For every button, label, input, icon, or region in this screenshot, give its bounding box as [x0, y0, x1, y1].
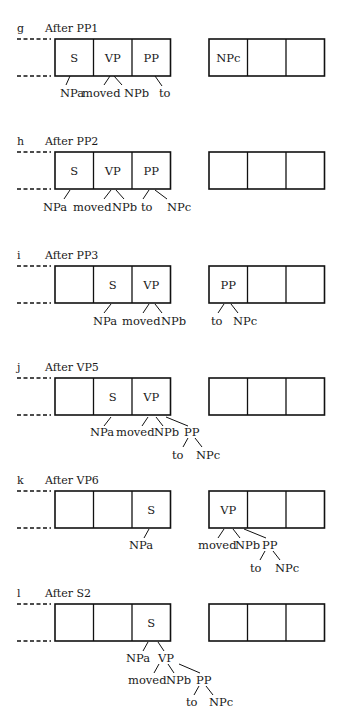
tree-node-label: NPc [233, 314, 257, 328]
tree-branch [179, 664, 200, 673]
tree-node-label: NPc [275, 561, 299, 575]
left-buffer-box: SVPPP [55, 152, 171, 189]
tree-node-label: NPa [129, 538, 153, 552]
tree-branch [260, 551, 265, 560]
panel-l: lAfter S2SNPaVPmovedNPbPPtoNPc [17, 587, 325, 709]
panel-title: After VP5 [44, 361, 99, 374]
tree-branch [206, 686, 213, 695]
tree-branch [144, 529, 149, 538]
left-buffer-box: S [55, 604, 171, 641]
tree-branch [168, 664, 174, 673]
tree-branch [116, 190, 124, 199]
tree-node-label: moved [198, 538, 237, 552]
tree-node-label: NPb [161, 314, 186, 328]
tree-node-label: moved [128, 673, 167, 687]
tree-node-label: PP [196, 673, 212, 687]
tree-node-label: NPb [124, 86, 149, 100]
tree-branch [155, 190, 167, 199]
tree-branch [158, 642, 164, 651]
cell-label: VP [219, 503, 236, 517]
tree-branch [195, 438, 202, 447]
cell-label: S [109, 390, 117, 404]
tree-branch [143, 642, 148, 651]
right-buffer-box: PP [209, 266, 325, 303]
tree-node-label: NPa [93, 314, 117, 328]
tree-branch [154, 664, 159, 673]
tree-branch [114, 76, 122, 85]
tree-node-label: moved [73, 200, 112, 214]
right-buffer-box [209, 378, 325, 415]
cell-label: PP [144, 51, 160, 65]
cell-label: VP [142, 390, 159, 404]
panel-title: After PP3 [44, 249, 98, 262]
right-box-frame [209, 152, 325, 189]
left-buffer-box: SVP [55, 378, 171, 415]
tree-branch [231, 304, 238, 313]
panel-g: gAfter PP1SVPPPNPcNPamovedNPbto [17, 22, 325, 100]
cell-label: NPc [216, 51, 240, 65]
panel-letter: i [17, 249, 21, 262]
tree-node-label: NPa [126, 651, 150, 665]
tree-node-label: PP [184, 425, 200, 439]
tree-branch [218, 304, 224, 313]
diagram-canvas: gAfter PP1SVPPPNPcNPamovedNPbtohAfter PP… [0, 0, 344, 721]
panel-h: hAfter PP2SVPPPNPamovedNPbtoNPc [17, 135, 325, 214]
cell-label: S [70, 164, 78, 178]
tree-node-label: PP [262, 538, 278, 552]
cell-label: PP [221, 278, 237, 292]
panel-letter: l [17, 587, 21, 600]
panel-letter: h [17, 135, 24, 148]
tree-branch [64, 190, 70, 199]
tree-node-label: to [159, 86, 171, 100]
tree-node-label: NPb [166, 673, 191, 687]
tree-node-label: VP [157, 651, 174, 665]
right-buffer-box [209, 152, 325, 189]
tree-node-label: moved [82, 86, 121, 100]
tree-node-label: moved [116, 425, 155, 439]
tree-node-label: NPa [43, 200, 67, 214]
tree-branch [244, 529, 266, 538]
right-box-frame [209, 378, 325, 415]
panel-i: iAfter PP3SVPPPNPamovedNPbtoNPc [17, 249, 325, 328]
tree-node-label: NPb [235, 538, 260, 552]
tree-node-label: NPc [209, 695, 233, 709]
left-buffer-box: SVP [55, 266, 171, 303]
panel-title: After S2 [44, 587, 91, 600]
cell-label: VP [104, 164, 121, 178]
right-buffer-box: NPc [209, 39, 325, 76]
cell-label: PP [144, 164, 160, 178]
panel-j: jAfter VP5SVPNPamovedNPbPPtoNPc [15, 361, 325, 462]
tree-node-label: NPa [90, 425, 114, 439]
tree-branch [194, 686, 199, 695]
cell-label: S [147, 503, 155, 517]
left-buffer-box: SVPPP [55, 39, 171, 76]
tree-node-label: NPc [167, 200, 191, 214]
tree-branch [104, 76, 110, 85]
tree-branch [183, 438, 188, 447]
tree-node-label: NPb [112, 200, 137, 214]
tree-branch [143, 190, 149, 199]
tree-node-label: to [186, 695, 198, 709]
tree-node-label: NPa [60, 86, 84, 100]
tree-branch [155, 76, 162, 86]
tree-node-label: to [250, 561, 262, 575]
tree-branch [273, 551, 280, 560]
tree-node-label: to [141, 200, 153, 214]
tree-node-label: NPc [196, 448, 220, 462]
tree-branch [233, 529, 240, 538]
tree-branch [143, 304, 149, 313]
tree-node-label: NPb [154, 425, 179, 439]
tree-node-label: to [172, 448, 184, 462]
tree-branch [104, 190, 111, 199]
left-buffer-box: S [55, 491, 171, 528]
cell-label: S [147, 616, 155, 630]
panel-letter: g [17, 22, 24, 35]
panel-letter: j [15, 361, 20, 374]
cell-label: S [109, 278, 117, 292]
tree-node-label: moved [122, 314, 161, 328]
cell-label: VP [104, 51, 121, 65]
panel-title: After PP2 [44, 135, 98, 148]
panel-title: After VP6 [44, 474, 99, 487]
cell-label: S [70, 51, 78, 65]
parse-stack-diagram: gAfter PP1SVPPPNPcNPamovedNPbtohAfter PP… [0, 0, 344, 721]
